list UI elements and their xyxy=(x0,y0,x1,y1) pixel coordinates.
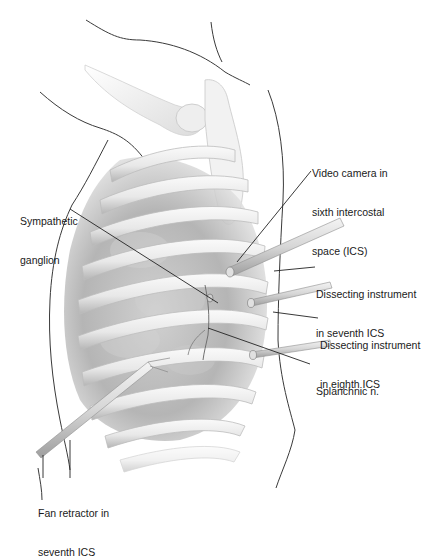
label-splanchnic: Splanchnic n. xyxy=(316,359,379,411)
leader-dissecting-eighth xyxy=(273,312,318,318)
leader-dissecting-seventh xyxy=(274,267,315,271)
label-sympathetic-ganglion: Sympathetic ganglion xyxy=(20,189,78,280)
label-fan-retractor: Fan retractor in seventh ICS xyxy=(38,481,109,560)
label-video-camera: Video camera in sixth intercostal space … xyxy=(312,141,388,271)
